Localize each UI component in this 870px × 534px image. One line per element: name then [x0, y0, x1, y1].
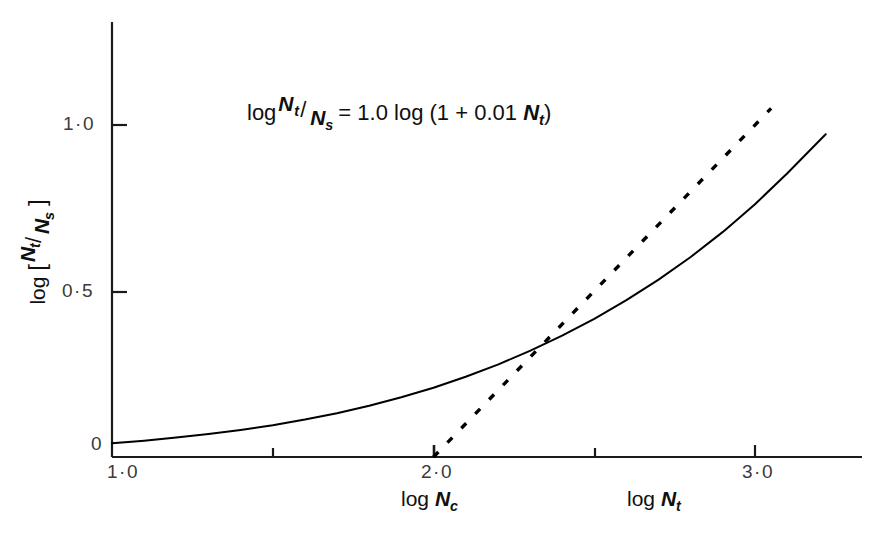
ylabel-fraction: Nt / Ns: [25, 206, 47, 264]
ylabel-close-bracket: ]: [23, 199, 50, 206]
x-tick-label-2point0: 2·0: [421, 461, 453, 483]
eqn-rhs-body: (1 + 0.01: [430, 100, 524, 125]
eqn-equals: =: [338, 100, 351, 125]
x-axis-label-log-Nt: log Nt: [627, 487, 681, 514]
asymptote-dashed: [434, 108, 772, 457]
ylabel-numerator-sub: t: [16, 243, 43, 248]
y-tick-label-0point5: 0·5: [62, 280, 94, 302]
eqn-lhs-fraction: Nt / Ns: [276, 101, 338, 123]
ylabel-denominator-sub: s: [30, 212, 57, 220]
xlabel-nt-var: N: [661, 487, 676, 510]
x-axis-label-log-Nc: log Nc: [401, 487, 458, 514]
xlabel-nc-log: log: [401, 487, 429, 510]
ylabel-denominator: N: [30, 219, 54, 234]
data-curve-solid: [112, 134, 826, 443]
xlabel-nt-sub: t: [676, 498, 681, 514]
x-tick-label-3point0: 3·0: [742, 461, 774, 483]
ylabel-open-bracket: [: [23, 264, 50, 271]
y-axis-label: log [ Nt / Ns ]: [23, 152, 51, 352]
equation-annotation: log Nt / Ns = 1.0 log (1 + 0.01 Nt): [247, 100, 551, 128]
ylabel-numerator: N: [16, 247, 40, 262]
ylabel-slash: /: [21, 237, 47, 243]
eqn-lhs-denominator: N: [310, 106, 325, 130]
xlabel-nc-var: N: [435, 487, 450, 510]
ylabel-log: log: [26, 277, 49, 305]
eqn-lhs-numerator-sub: t: [294, 92, 299, 119]
eqn-rhs-var: N: [523, 100, 539, 125]
eqn-lhs-denominator-sub: s: [325, 106, 333, 133]
xlabel-nc-sub: c: [450, 498, 458, 514]
y-tick-label-1point0: 1·0: [63, 113, 95, 135]
eqn-lhs-numerator: N: [278, 92, 293, 116]
chart-figure: 1·0 0·5 0 1·0 2·0 3·0 log Nc log Nt log …: [0, 0, 870, 534]
eqn-rhs-close: ): [544, 100, 551, 125]
x-tick-label-1point0: 1·0: [107, 461, 139, 483]
eqn-lhs-slash: /: [300, 97, 306, 123]
eqn-lhs-log: log: [247, 100, 276, 125]
y-tick-label-0: 0: [91, 433, 103, 455]
eqn-rhs-log: log: [394, 100, 423, 125]
eqn-coefficient: 1.0: [357, 100, 388, 125]
plot-canvas: [0, 0, 870, 534]
xlabel-nt-log: log: [627, 487, 655, 510]
